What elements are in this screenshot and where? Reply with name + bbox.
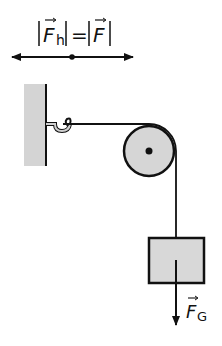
gravity-force-label: F G xyxy=(186,296,207,324)
hook-icon xyxy=(46,119,74,131)
force-g-symbol: F xyxy=(186,301,197,322)
force-h-symbol: F xyxy=(43,23,55,47)
horizontal-force-arrow xyxy=(12,54,133,60)
point-of-application-dot xyxy=(69,54,75,60)
force-g-subscript: G xyxy=(197,309,207,324)
force-symbol: F xyxy=(93,23,105,47)
pulley-diagram: F h = F xyxy=(0,0,222,346)
wall-fill xyxy=(24,84,46,166)
equals-sign: = xyxy=(71,23,88,47)
fixed-pulley xyxy=(124,126,174,176)
wall xyxy=(24,84,46,166)
force-equation: F h = F xyxy=(39,18,110,48)
pulley-axle xyxy=(146,148,153,155)
force-h-subscript: h xyxy=(56,32,65,48)
